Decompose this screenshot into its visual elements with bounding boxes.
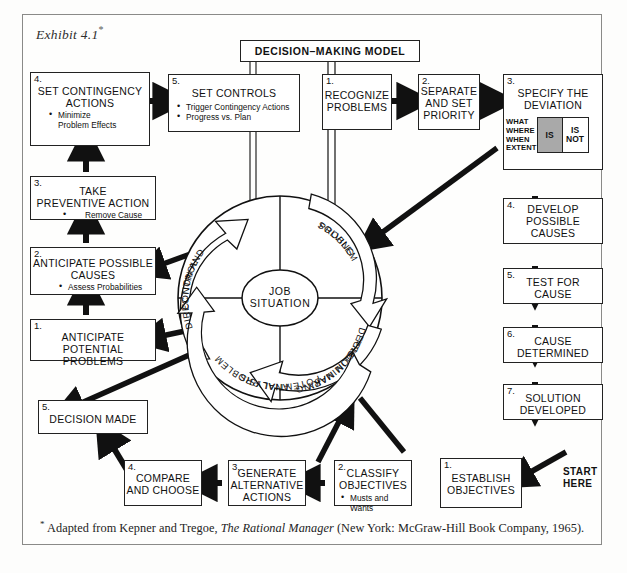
box-classify-objectives[interactable]: 2. CLASSIFY OBJECTIVES Musts and Wants	[334, 460, 412, 506]
box-solution-developed[interactable]: 7. SOLUTION DEVELOPED	[503, 384, 603, 420]
box-number: 7.	[507, 385, 515, 396]
box-title-line2: ACTIONS	[31, 97, 149, 109]
box-title-line2: CAUSES	[31, 269, 155, 281]
box-specify-the-deviation[interactable]: 3. SPECIFY THE DEVIATION WHAT WHERE WHEN…	[503, 74, 603, 170]
box-title-line3: ACTIONS	[229, 491, 305, 503]
box-number: 5.	[507, 269, 515, 280]
box-bullets: Musts and Wants	[339, 493, 411, 513]
box-title-line1: SPECIFY THE	[504, 87, 602, 99]
bullet-item: Remove Cause	[61, 210, 155, 220]
box-title-line1: SEPARATE	[419, 85, 479, 97]
box-bullets: Assess Probabilities	[57, 282, 155, 292]
box-title-line2: OBJECTIVES	[441, 484, 521, 496]
box-generate-alternative-actions[interactable]: 3. GENERATE ALTERNATIVE ACTIONS	[228, 460, 306, 506]
box-anticipate-possible-causes[interactable]: 2. ANTICIPATE POSSIBLE CAUSES Assess Pro…	[30, 247, 156, 295]
exhibit-title-star: *	[99, 24, 104, 35]
box-title-line2: PREVENTIVE ACTION	[31, 197, 155, 209]
box-title-line3: PRIORITY	[419, 109, 479, 121]
box-number: 3.	[232, 461, 240, 472]
box-title-line2: DEVELOPED	[504, 404, 602, 416]
box-anticipate-potential-problems[interactable]: 1. ANTICIPATE POTENTIAL PROBLEMS	[30, 319, 156, 361]
box-number: 3.	[507, 75, 515, 86]
box-number: 1.	[34, 320, 42, 331]
box-bullets: Trigger Contingency Actions Progress vs.…	[175, 102, 299, 122]
box-number: 6.	[507, 328, 515, 339]
box-cause-determined[interactable]: 6. CAUSE DETERMINED	[503, 327, 603, 363]
box-title-line3: CAUSES	[504, 227, 602, 239]
matrix-is-label: IS	[546, 131, 554, 140]
box-number: 2.	[422, 75, 430, 86]
box-set-contingency-actions[interactable]: 4. SET CONTINGENCY ACTIONS Minimize Prob…	[30, 72, 150, 146]
exhibit-page: JOB SITUATION DIRECTION AND CONTROL	[0, 0, 627, 573]
footnote-part1: Adapted from Kepner and Tregoe,	[45, 521, 221, 535]
box-separate-and-set-priority[interactable]: 2. SEPARATE AND SET PRIORITY	[418, 74, 480, 130]
box-title-line1: ANTICIPATE POTENTIAL	[31, 331, 155, 355]
box-decision-made[interactable]: 5. DECISION MADE	[38, 400, 148, 434]
footnote-part2: (New York: McGraw-Hill Book Company, 196…	[334, 521, 584, 535]
matrix-isnot-line2: NOT	[566, 135, 584, 144]
box-number: 5.	[42, 401, 50, 412]
box-title-line2: OBJECTIVES	[335, 479, 411, 491]
box-number: 1.	[444, 459, 452, 470]
box-establish-objectives[interactable]: 1. ESTABLISH OBJECTIVES	[440, 458, 522, 508]
box-title-line1: TEST FOR	[504, 276, 602, 288]
box-number: 2.	[34, 248, 42, 259]
box-title-line1: SET CONTROLS	[169, 87, 299, 99]
box-title-line2: CAUSE	[504, 288, 602, 300]
decision-making-model-label: DECISION–MAKING MODEL	[255, 45, 406, 57]
box-title-line1: RECOGNIZE	[323, 89, 391, 101]
box-title-line1: COMPARE	[125, 472, 201, 484]
footnote-italic-title: The Rational Manager	[221, 521, 334, 535]
box-set-controls[interactable]: 5. SET CONTROLS Trigger Contingency Acti…	[168, 74, 300, 132]
box-title-line1: CAUSE	[504, 335, 602, 347]
box-title-line1: DEVELOP	[504, 203, 602, 215]
box-develop-possible-causes[interactable]: 4. DEVELOP POSSIBLE CAUSES	[503, 198, 603, 244]
box-number: 2.	[338, 461, 346, 472]
decision-making-model-header: DECISION–MAKING MODEL	[240, 40, 420, 62]
box-title-line1: ESTABLISH	[441, 472, 521, 484]
box-title-line2: AND CHOOSE	[125, 484, 201, 496]
box-number: 5.	[172, 75, 180, 86]
box-number: 3.	[34, 177, 42, 188]
box-number: 4.	[34, 73, 42, 84]
box-take-preventive-action[interactable]: 3. TAKE PREVENTIVE ACTION Remove Cause	[30, 176, 156, 220]
box-title-line2: ALTERNATIVE	[229, 479, 305, 491]
box-title-line1: SOLUTION	[504, 392, 602, 404]
box-title-line2: POSSIBLE	[504, 215, 602, 227]
bullet-item: Minimize Problem Effects	[47, 110, 149, 130]
matrix-dim: EXTENT	[506, 144, 537, 153]
box-compare-and-choose[interactable]: 4. COMPARE AND CHOOSE	[124, 460, 202, 506]
exhibit-title: Exhibit 4.1*	[36, 24, 104, 43]
box-recognize-problems[interactable]: 1. RECOGNIZE PROBLEMS	[322, 74, 392, 130]
box-bullets: Remove Cause	[61, 210, 155, 220]
box-title-line1: GENERATE	[229, 467, 305, 479]
bullet-item: Trigger Contingency Actions	[175, 102, 299, 112]
box-title-line2: AND SET	[419, 97, 479, 109]
box-title-line1: ANTICIPATE POSSIBLE	[31, 257, 155, 269]
start-here-line1: START	[563, 466, 598, 478]
box-title-line1: DECISION MADE	[39, 413, 147, 425]
bullet-item: Assess Probabilities	[57, 282, 155, 292]
matrix-dimensions: WHAT WHERE WHEN EXTENT	[506, 117, 537, 155]
start-here-label: START HERE	[563, 466, 598, 489]
box-number: 1.	[326, 75, 334, 86]
matrix-cell-is-not[interactable]: IS NOT	[563, 117, 589, 153]
bullet-item: Progress vs. Plan	[175, 112, 299, 122]
box-test-for-cause[interactable]: 5. TEST FOR CAUSE	[503, 268, 603, 304]
box-bullets: Minimize Problem Effects	[47, 110, 149, 130]
box-title-line1: CLASSIFY	[335, 467, 411, 479]
box-title-line2: DETERMINED	[504, 347, 602, 359]
box-title-line2: PROBLEMS	[31, 355, 155, 367]
exhibit-title-text: Exhibit 4.1	[36, 27, 99, 42]
box-title-line1: SET CONTINGENCY	[31, 85, 149, 97]
start-here-line2: HERE	[563, 478, 598, 490]
box-title-line2: DEVIATION	[504, 99, 602, 111]
is-is-not-matrix: WHAT WHERE WHEN EXTENT IS IS NOT	[506, 117, 602, 155]
bullet-item: Musts and Wants	[339, 493, 411, 513]
box-title-line1: TAKE	[31, 185, 155, 197]
box-title-line2: PROBLEMS	[323, 101, 391, 113]
box-number: 4.	[507, 199, 515, 210]
box-number: 4.	[128, 461, 136, 472]
footnote: * Adapted from Kepner and Tregoe, The Ra…	[40, 519, 585, 536]
matrix-cell-is[interactable]: IS	[537, 117, 563, 153]
